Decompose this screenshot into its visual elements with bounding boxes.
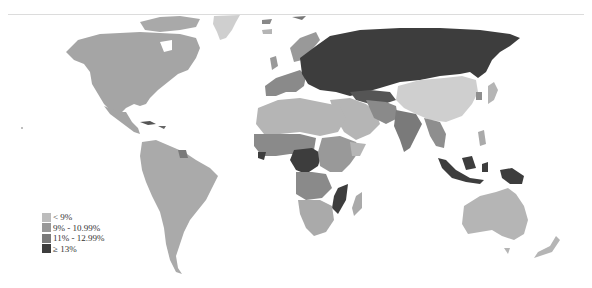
legend-swatch <box>42 213 51 222</box>
region-new-guinea <box>500 168 524 184</box>
legend-item-lt9: < 9% <box>42 212 104 223</box>
legend-swatch <box>42 244 51 253</box>
region-japan <box>488 82 498 104</box>
region-western-europe <box>265 70 306 96</box>
legend-item-ge13: ≥ 13% <box>42 244 104 255</box>
region-india <box>394 110 422 152</box>
region-southern-africa <box>298 200 334 236</box>
region-north-america <box>66 32 200 114</box>
region-greenland <box>213 15 240 40</box>
legend-item-9-11: 9% - 10.99% <box>42 223 104 234</box>
legend-label: ≥ 13% <box>53 244 77 255</box>
legend-label: 11% - 12.99% <box>53 233 104 244</box>
region-caribbean <box>140 121 156 125</box>
region-southeast-asia <box>424 118 446 148</box>
legend-swatch <box>42 223 51 232</box>
region-indonesia <box>438 158 484 184</box>
legend-label: 9% - 10.99% <box>53 223 100 234</box>
map-legend: < 9% 9% - 10.99% 11% - 12.99% ≥ 13% <box>42 212 104 254</box>
legend-item-11-13: 11% - 12.99% <box>42 233 104 244</box>
region-canada-arctic <box>140 16 200 32</box>
region-mozambique <box>332 184 348 214</box>
region-australia <box>462 188 528 240</box>
region-congo <box>296 172 332 200</box>
legend-label: < 9% <box>53 212 72 223</box>
region-south-america <box>140 140 218 274</box>
region-new-zealand <box>534 236 560 258</box>
region-central-africa <box>290 148 322 174</box>
legend-swatch <box>42 234 51 243</box>
region-uk <box>270 56 278 70</box>
region-madagascar <box>352 192 362 216</box>
